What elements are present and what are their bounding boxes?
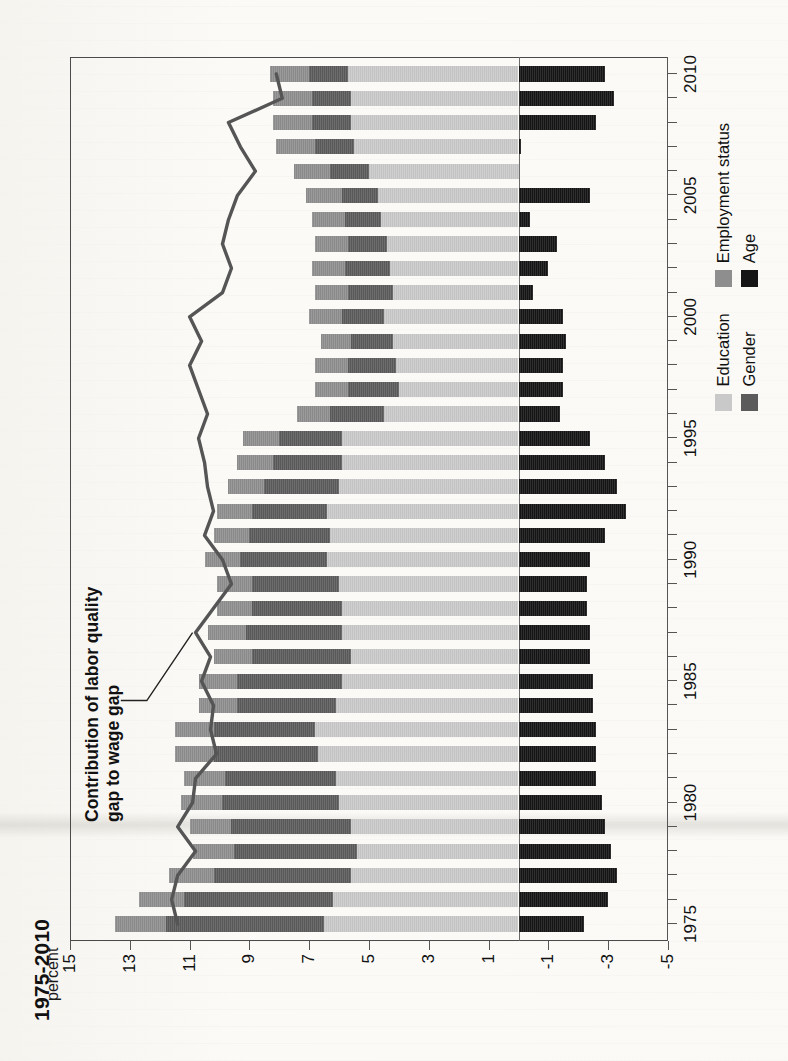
x-tick	[668, 413, 677, 414]
bar-segment-employment-status	[294, 163, 330, 178]
bar-segment-gender	[273, 455, 342, 470]
y-tick-label: 3	[419, 954, 439, 963]
x-tick	[668, 631, 677, 632]
bar-segment-employment-status	[312, 212, 345, 227]
bar-segment-education	[384, 406, 519, 421]
legend-label: Age	[740, 233, 759, 262]
bar-segment-employment-status	[315, 236, 348, 251]
bar-segment-age	[519, 552, 591, 567]
bar-segment-employment-status	[306, 187, 342, 202]
legend-item-age[interactable]: Age	[740, 122, 759, 286]
bar-1993[interactable]	[70, 479, 668, 494]
bar-segment-age	[519, 527, 606, 542]
bar-2008[interactable]	[70, 115, 668, 130]
y-tick-label: 9	[239, 954, 259, 963]
bar-1990[interactable]	[70, 552, 668, 567]
bar-segment-gender	[249, 527, 330, 542]
bar-1989[interactable]	[70, 576, 668, 591]
bar-2000[interactable]	[70, 309, 668, 324]
bar-segment-education	[324, 916, 518, 931]
legend-item-education[interactable]: Education	[714, 313, 733, 410]
y-tick	[369, 941, 370, 950]
bar-segment-gender	[237, 673, 342, 688]
bar-segment-gender	[342, 309, 384, 324]
bar-segment-age	[519, 722, 597, 737]
bar-segment-education	[384, 309, 519, 324]
x-tick-label: 2010	[681, 55, 701, 93]
bar-segment-gender	[279, 430, 342, 445]
bar-1997[interactable]	[70, 382, 668, 397]
bar-2001[interactable]	[70, 285, 668, 300]
bar-2006[interactable]	[70, 163, 668, 178]
bar-segment-age	[519, 187, 591, 202]
bar-2005[interactable]	[70, 187, 668, 202]
bar-segment-gender	[214, 746, 319, 761]
bar-segment-age	[519, 770, 597, 785]
x-tick	[668, 825, 677, 826]
legend-item-gender[interactable]: Gender	[740, 313, 759, 410]
bar-segment-gender	[351, 333, 393, 348]
x-tick	[668, 558, 677, 559]
x-tick	[668, 170, 677, 171]
bar-segment-age	[519, 236, 558, 251]
bar-1987[interactable]	[70, 625, 668, 640]
bar-segment-education	[393, 333, 519, 348]
bar-segment-gender	[252, 649, 351, 664]
bar-segment-gender	[330, 163, 369, 178]
bar-1994[interactable]	[70, 455, 668, 470]
scanned-page: 1975-2010 percent 15131197531-1-3-5 1975…	[0, 0, 788, 1061]
bar-2007[interactable]	[70, 139, 668, 154]
x-tick	[668, 874, 677, 875]
legend-item-employment-status[interactable]: Employment status	[714, 122, 733, 286]
bar-segment-gender	[252, 576, 339, 591]
legend-label: Education	[714, 313, 733, 386]
bar-segment-age	[519, 697, 594, 712]
bar-segment-age	[519, 90, 615, 105]
bar-segment-gender	[246, 625, 342, 640]
bar-2002[interactable]	[70, 260, 668, 275]
bar-segment-age	[519, 625, 591, 640]
bar-segment-age	[519, 455, 606, 470]
bar-segment-education	[351, 867, 518, 882]
bar-segment-education	[315, 722, 518, 737]
bar-segment-gender	[240, 552, 327, 567]
bar-segment-education	[351, 115, 518, 130]
bar-segment-age	[519, 66, 606, 81]
bar-1996[interactable]	[70, 406, 668, 421]
x-tick-label: 1995	[681, 419, 701, 457]
bar-segment-education	[387, 236, 519, 251]
bar-segment-age	[519, 406, 561, 421]
x-tick-label: 1985	[681, 662, 701, 700]
bar-segment-education	[390, 260, 519, 275]
x-tick	[668, 510, 677, 511]
bar-segment-age	[519, 285, 534, 300]
bar-1998[interactable]	[70, 357, 668, 372]
x-tick-label: 1990	[681, 540, 701, 578]
bar-1992[interactable]	[70, 503, 668, 518]
legend-label: Employment status	[714, 122, 733, 262]
bar-2010[interactable]	[70, 66, 668, 81]
x-tick	[668, 121, 677, 122]
bar-1988[interactable]	[70, 600, 668, 615]
stacked-bar-chart: 1975-2010 percent 15131197531-1-3-5 1975…	[36, 25, 752, 1037]
y-tick	[429, 941, 430, 950]
bar-segment-age	[519, 916, 585, 931]
x-tick	[668, 97, 677, 98]
bar-2003[interactable]	[70, 236, 668, 251]
bar-segment-education	[351, 649, 518, 664]
bar-1991[interactable]	[70, 527, 668, 542]
x-tick-label: 1975	[681, 905, 701, 943]
x-tick	[668, 437, 677, 438]
bar-segment-gender	[234, 843, 357, 858]
bar-segment-gender	[348, 236, 387, 251]
bar-1995[interactable]	[70, 430, 668, 445]
bar-segment-education	[318, 746, 518, 761]
bar-segment-employment-status	[315, 285, 348, 300]
bar-segment-age	[519, 309, 564, 324]
x-tick-label: 2000	[681, 297, 701, 335]
bar-segment-gender	[348, 357, 396, 372]
bar-2009[interactable]	[70, 90, 668, 105]
bar-2004[interactable]	[70, 212, 668, 227]
bar-1999[interactable]	[70, 333, 668, 348]
bar-segment-gender	[225, 770, 336, 785]
